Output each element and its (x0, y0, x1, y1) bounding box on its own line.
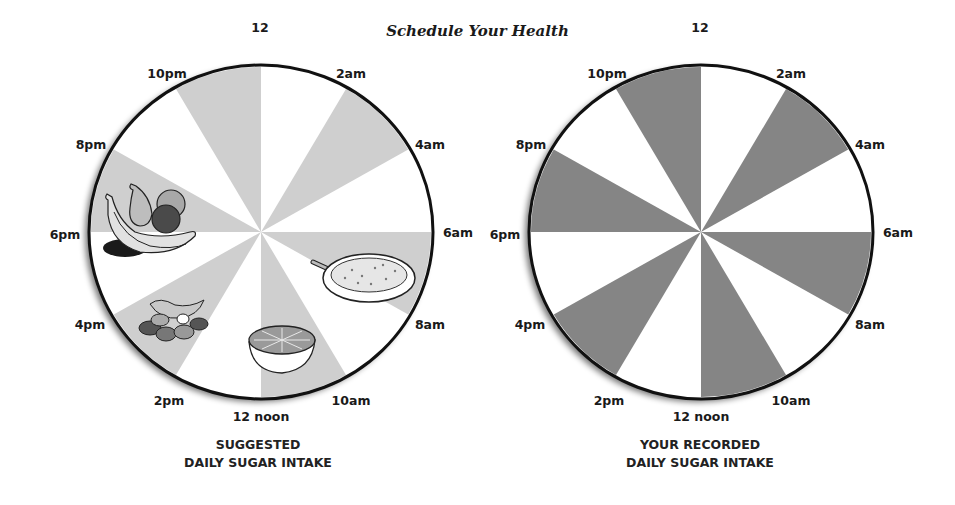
label-8pm: 8pm (76, 137, 107, 152)
label-10am: 10am (772, 393, 811, 408)
label-6pm: 6pm (490, 227, 521, 242)
label-2am: 2am (776, 66, 806, 81)
label-2pm: 2pm (594, 393, 625, 408)
label-12-noon: 12 noon (673, 409, 730, 424)
suggested-caption-line2: DAILY SUGAR INTAKE (108, 454, 408, 472)
label-6am: 6am (443, 225, 473, 240)
label-8am: 8am (855, 317, 885, 332)
label-4pm: 4pm (75, 317, 106, 332)
label-10am: 10am (332, 393, 371, 408)
label-10pm: 10pm (587, 66, 626, 81)
label-12: 12 (251, 20, 268, 35)
clock-charts: 12 2am 4am 6am 8am 10am 12 noon 2pm 4pm … (0, 0, 955, 505)
suggested-clock-chart (89, 65, 433, 399)
label-8pm: 8pm (516, 137, 547, 152)
label-2pm: 2pm (154, 393, 185, 408)
recorded-caption-line2: DAILY SUGAR INTAKE (550, 454, 850, 472)
recorded-clock-chart (529, 65, 873, 399)
label-6pm: 6pm (50, 227, 81, 242)
suggested-caption-line1: SUGGESTED (108, 436, 408, 454)
label-12-noon: 12 noon (233, 409, 290, 424)
label-4am: 4am (855, 137, 885, 152)
label-12: 12 (691, 20, 708, 35)
label-2am: 2am (336, 66, 366, 81)
label-6am: 6am (883, 225, 913, 240)
recorded-caption: YOUR RECORDED DAILY SUGAR INTAKE (550, 436, 850, 472)
recorded-caption-line1: YOUR RECORDED (550, 436, 850, 454)
label-10pm: 10pm (147, 66, 186, 81)
suggested-caption: SUGGESTED DAILY SUGAR INTAKE (108, 436, 408, 472)
label-4pm: 4pm (515, 317, 546, 332)
label-4am: 4am (415, 137, 445, 152)
label-8am: 8am (415, 317, 445, 332)
